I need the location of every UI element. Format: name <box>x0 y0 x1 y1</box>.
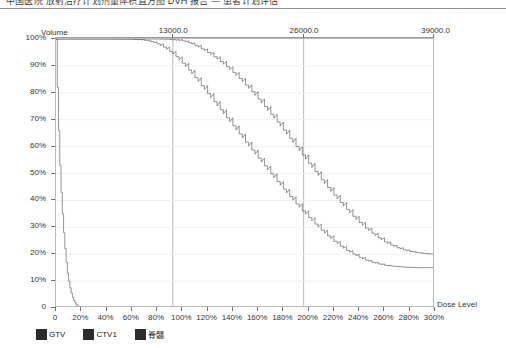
y-tick-label: 20% <box>14 248 46 257</box>
y-tick-label: 30% <box>14 221 46 230</box>
plot-canvas <box>56 39 434 307</box>
y-tick-label: 90% <box>14 60 46 69</box>
y-tick-label: 100% <box>14 33 46 42</box>
top-tick-label: 26000.0 <box>290 26 319 35</box>
y-tick-label: 60% <box>14 141 46 150</box>
y-tick-label: 80% <box>14 87 46 96</box>
y-tick-label: 10% <box>14 275 46 284</box>
x-tick-mark <box>383 307 384 311</box>
horizontal-gridlines <box>56 66 434 281</box>
legend-item-label: 脊髓 <box>148 329 164 340</box>
y-tick-mark <box>51 92 55 93</box>
x-tick-mark <box>308 307 309 311</box>
y-tick-label: 70% <box>14 114 46 123</box>
legend-item[interactable]: 脊髓 <box>135 329 164 340</box>
x-tick-mark <box>156 307 157 311</box>
y-tick-mark <box>51 119 55 120</box>
x-tick-mark <box>232 307 233 311</box>
x-tick-mark <box>434 307 435 311</box>
plot-area <box>55 38 434 307</box>
y-tick-mark <box>51 173 55 174</box>
y-tick-mark <box>51 65 55 66</box>
top-tick-label: 39000.0 <box>421 26 450 35</box>
legend-item[interactable]: GTV <box>36 329 65 340</box>
x-tick-mark <box>55 307 56 311</box>
legend-item[interactable]: CTV1 <box>83 329 116 340</box>
x-tick-mark <box>80 307 81 311</box>
x-tick-mark <box>282 307 283 311</box>
y-tick-label: 40% <box>14 194 46 203</box>
dvh-chart: Volume Dose Level 010%20%30%40%50%60%70%… <box>0 9 506 348</box>
y-tick-mark <box>51 226 55 227</box>
top-tick-mark <box>172 34 173 38</box>
x-tick-label: 300% <box>417 313 451 322</box>
x-axis-title: Dose Level <box>437 300 477 309</box>
x-tick-mark <box>257 307 258 311</box>
x-tick-mark <box>358 307 359 311</box>
x-tick-mark <box>106 307 107 311</box>
y-tick-mark <box>51 280 55 281</box>
legend-item-label: CTV1 <box>96 330 116 339</box>
y-tick-mark <box>51 199 55 200</box>
header-title-text: 中国医院 放射治疗计划剂量体积直方图 DVH 报告 — 患者计划评估 <box>6 0 278 7</box>
x-tick-mark <box>207 307 208 311</box>
legend-item-label: GTV <box>49 330 65 339</box>
x-tick-mark <box>181 307 182 311</box>
top-tick-mark <box>303 34 304 38</box>
y-tick-mark <box>51 253 55 254</box>
series-curve-CTV1 <box>56 39 434 268</box>
x-tick-mark <box>409 307 410 311</box>
legend-swatch-icon <box>36 329 47 340</box>
y-tick-mark <box>51 146 55 147</box>
top-tick-label: 13000.0 <box>159 26 188 35</box>
legend-swatch-icon <box>83 329 94 340</box>
y-tick-mark <box>51 38 55 39</box>
x-tick-mark <box>333 307 334 311</box>
chart-legend: GTVCTV1脊髓 <box>36 329 164 340</box>
legend-swatch-icon <box>135 329 146 340</box>
y-tick-label: 50% <box>14 168 46 177</box>
top-tick-mark <box>433 34 434 38</box>
y-tick-label: 0 <box>14 302 46 311</box>
x-tick-mark <box>131 307 132 311</box>
